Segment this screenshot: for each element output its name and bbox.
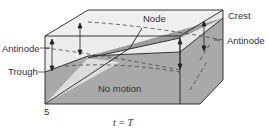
label-figure-number: 5 <box>44 107 49 117</box>
label-antinode-left: Antinode <box>2 44 40 54</box>
label-antinode-right: Antinode <box>227 36 265 46</box>
label-no-motion: No motion <box>98 84 141 94</box>
label-time-caption: t = T <box>113 118 133 128</box>
label-trough: Trough <box>8 67 38 77</box>
label-crest: Crest <box>228 11 251 21</box>
label-node: Node <box>143 14 166 24</box>
